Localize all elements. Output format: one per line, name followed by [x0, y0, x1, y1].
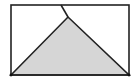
vertex-bottom-right	[128, 74, 131, 77]
geometry-diagram	[0, 0, 134, 81]
vertex-bottom-left	[10, 74, 13, 77]
